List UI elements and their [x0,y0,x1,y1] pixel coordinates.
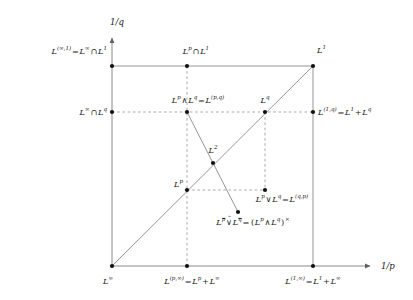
label-L-infty: L∞ [103,277,113,285]
label-L-infty-cap-Lq: L∞∩Lq [80,108,107,116]
label-L1-plus-Lq: L(1,q)=L1+Lq [318,108,371,116]
dot-L-infty [110,264,114,268]
dot-L1-plus-Lq [311,110,315,114]
dot-Lp-cap-L1 [185,64,189,68]
label-Lp-wedge-Lq: Lp∧Lq=L(p,q) [172,96,224,104]
dot-L1 [311,64,315,68]
dot-L1-plus-L-infty [311,264,315,268]
dot-Lp-wedge-Lq [185,110,189,114]
dot-dual [236,210,240,214]
label-Lp: Lp [174,180,183,188]
label-L1: L1 [317,46,326,54]
lattice-diagram-figure: 1/q 1/p L(∞,1)=L∞∩L1 Lp∩L1 L1 L∞∩Lq Lp∧L… [0,0,413,300]
label-Lq: Lq [261,96,270,104]
dot-Lp-vee-Lq [263,188,267,192]
y-axis-label: 1/q [110,18,124,27]
label-Lp-cap-L1: Lp∩L1 [183,47,209,55]
axis-lines [112,38,370,266]
dot-Lp [185,188,189,192]
label-Lp-plus-L-infty: L(p,∞)=Lp+L∞ [164,277,220,285]
label-dual-Lp-vee-Lq: Lp∨Lq=(Lp∧Lq)× [216,218,289,226]
dot-Lp-plus-L-infty [185,264,189,268]
label-L2: L2 [209,146,218,154]
dot-L-infty-cap-L1 [110,64,114,68]
dot-Lq [263,110,267,114]
dot-L-infty-cap-Lq [110,110,114,114]
label-Lp-vee-Lq: Lp∨Lq=L(q,p) [256,195,308,203]
label-L1-plus-L-infty: L(1,∞)=L1+L∞ [285,277,340,285]
x-axis-label: 1/p [381,262,395,271]
dot-L2 [211,161,215,165]
label-L-infty-cap-L1: L(∞,1)=L∞∩L1 [52,47,107,55]
